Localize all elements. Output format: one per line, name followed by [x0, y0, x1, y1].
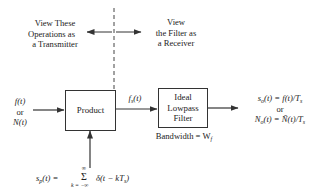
input-signal-label: f(t) or N(t)	[8, 96, 32, 128]
sampling-lhs-arg: (t) =	[42, 173, 58, 183]
transmitter-annotation-line-3: a Transmitter	[22, 39, 88, 50]
receiver-annotation: View the Filter as a Receiver	[142, 17, 210, 49]
receiver-annotation-line-2: the Filter as	[142, 28, 210, 39]
sampled-signal-arg: (t)	[133, 93, 141, 103]
sampling-function-formula: sp(t) = ∞ Σ k = −∞ δ(t − kTs)	[36, 168, 156, 190]
sum-lower-limit: k = −∞	[71, 182, 88, 188]
output-line-3: No(t) = Ñ(t)/Ts	[240, 114, 320, 125]
output-line-1: so(t) = f(t)/Ts	[240, 93, 320, 104]
transmitter-annotation-line-2: Operations as	[22, 29, 88, 40]
output-s-rhs: (t) = f(t)/T	[264, 93, 300, 103]
output-n-rhs-sub: s	[303, 119, 305, 125]
receiver-annotation-line-3: a Receiver	[142, 38, 210, 49]
filter-label-line-3: Filter	[173, 113, 192, 124]
sampling-lhs: sp(t) =	[36, 173, 58, 183]
product-block: Product	[65, 90, 116, 131]
filter-label-line-2: Lowpass	[167, 103, 198, 114]
transmitter-annotation-line-1: View These	[22, 18, 88, 29]
sum-symbol: Σ	[77, 171, 91, 182]
input-or: or	[8, 107, 32, 118]
summand-close: )	[126, 173, 129, 183]
sampled-signal-label: fs(t)	[120, 93, 150, 104]
output-n-rhs: (t) = Ñ(t)/T	[264, 114, 303, 124]
summand-main: δ(t − kT	[96, 173, 124, 183]
bandwidth-sub: f	[211, 136, 213, 142]
input-n-of-t: N(t)	[8, 117, 32, 128]
output-s-rhs-sub: s	[300, 98, 302, 104]
input-f-of-t: f(t)	[8, 96, 32, 107]
lowpass-filter-block: Ideal Lowpass Filter	[158, 88, 208, 128]
bandwidth-text: Bandwidth = W	[156, 131, 211, 141]
receiver-annotation-line-1: View	[142, 17, 210, 28]
filter-label-line-1: Ideal	[174, 92, 192, 103]
transmitter-annotation: View These Operations as a Transmitter	[22, 18, 88, 50]
output-equations: so(t) = f(t)/Ts or No(t) = Ñ(t)/Ts	[240, 93, 320, 125]
bandwidth-label: Bandwidth = Wf	[146, 131, 222, 142]
product-block-label: Product	[77, 105, 104, 116]
output-or: or	[240, 104, 320, 115]
sampling-summand: δ(t − kTs)	[96, 173, 129, 183]
